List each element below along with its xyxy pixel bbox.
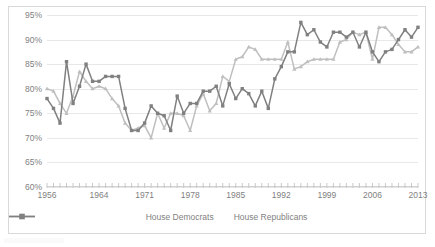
x-axis-tick-label: 1985 <box>226 191 245 200</box>
data-point-marker <box>195 102 198 105</box>
data-point-marker <box>371 50 374 53</box>
y-axis-tick-label: 80% <box>25 85 42 94</box>
data-point-marker <box>91 80 94 83</box>
series-line <box>47 22 418 130</box>
data-point-marker <box>410 35 413 38</box>
data-point-marker <box>156 112 159 115</box>
data-point-marker <box>221 104 224 107</box>
data-point-marker <box>299 21 302 24</box>
legend-swatch-republicans <box>9 212 35 221</box>
data-point-marker <box>416 26 419 29</box>
data-point-marker <box>182 112 185 115</box>
data-point-marker <box>65 60 68 63</box>
data-point-marker <box>214 101 218 105</box>
series-svg <box>47 15 418 187</box>
y-axis-tick-label: 65% <box>25 158 42 167</box>
data-point-marker <box>52 107 55 110</box>
legend-item-house-republicans: House Republicans <box>234 212 308 222</box>
data-point-marker <box>45 97 48 100</box>
plot-area: 60%65%70%75%80%85%90%95% <box>47 15 418 187</box>
data-point-marker <box>78 85 81 88</box>
data-point-marker <box>110 75 113 78</box>
y-axis-tick-label: 75% <box>25 109 42 118</box>
data-point-marker <box>149 104 152 107</box>
data-point-marker <box>123 107 126 110</box>
data-point-marker <box>97 84 101 88</box>
legend-item-house-democrats: House Democrats <box>146 212 214 222</box>
data-point-marker <box>77 69 81 73</box>
data-point-marker <box>403 28 406 31</box>
data-point-marker <box>338 31 341 34</box>
data-point-marker <box>247 45 251 49</box>
data-point-marker <box>273 77 276 80</box>
data-point-marker <box>58 121 61 124</box>
x-axis-tick-label: 1999 <box>317 191 336 200</box>
data-point-marker <box>136 129 139 132</box>
data-point-marker <box>45 87 49 91</box>
data-point-marker <box>162 114 165 117</box>
data-point-marker <box>202 89 205 92</box>
data-point-marker <box>286 50 289 53</box>
x-axis-tick-label: 2013 <box>409 191 428 200</box>
data-point-marker <box>377 60 380 63</box>
data-point-marker <box>384 50 387 53</box>
data-point-marker <box>208 89 211 92</box>
data-point-marker <box>351 31 354 34</box>
data-point-marker <box>397 38 400 41</box>
data-point-marker <box>104 75 107 78</box>
data-point-marker <box>370 57 374 61</box>
chart-card: 60%65%70%75%80%85%90%95% 195619641971197… <box>8 6 426 234</box>
chart-legend: House Democrats House Republicans <box>9 212 435 222</box>
data-point-marker <box>345 35 348 38</box>
data-point-marker <box>221 74 225 78</box>
data-point-marker <box>97 80 100 83</box>
data-point-marker <box>416 45 420 49</box>
data-point-marker <box>332 31 335 34</box>
data-point-marker <box>234 97 237 100</box>
y-axis-tick-label: 95% <box>25 11 42 20</box>
data-point-marker <box>117 75 120 78</box>
data-point-marker <box>123 121 127 125</box>
data-point-marker <box>267 107 270 110</box>
x-axis-labels: 195619641971197819851992199920062013 <box>47 191 418 205</box>
series-house-republicans <box>45 21 419 133</box>
data-point-marker <box>319 40 322 43</box>
data-point-marker <box>84 62 87 65</box>
data-point-marker <box>325 45 328 48</box>
data-point-marker <box>130 129 133 132</box>
data-point-marker <box>306 33 309 36</box>
legend-label-house-democrats: House Democrats <box>146 212 214 222</box>
x-axis-tick-label: 2006 <box>363 191 382 200</box>
data-point-marker <box>293 50 296 53</box>
series-house-democrats <box>45 25 420 139</box>
x-axis-tick-label: 1964 <box>90 191 109 200</box>
series-line <box>47 27 418 138</box>
data-point-marker <box>254 104 257 107</box>
data-point-marker <box>143 121 146 124</box>
data-point-marker <box>358 45 361 48</box>
data-point-marker <box>390 48 393 51</box>
data-point-marker <box>215 85 218 88</box>
data-point-marker <box>260 89 263 92</box>
x-axis-tick-label: 1978 <box>181 191 200 200</box>
x-axis-tick-label: 1992 <box>272 191 291 200</box>
y-axis-tick-label: 70% <box>25 134 42 143</box>
data-point-marker <box>71 102 74 105</box>
data-point-marker <box>247 92 250 95</box>
x-axis-tick-label: 1956 <box>38 191 57 200</box>
data-point-marker <box>228 82 231 85</box>
footer-artifact <box>4 238 64 243</box>
data-point-marker <box>169 129 172 132</box>
data-point-marker <box>188 102 191 105</box>
data-point-marker <box>364 31 367 34</box>
data-point-marker <box>312 28 315 31</box>
data-point-marker <box>175 94 178 97</box>
data-point-marker <box>286 40 290 44</box>
y-axis-tick-label: 90% <box>25 36 42 45</box>
x-axis-tick-label: 1971 <box>135 191 154 200</box>
y-axis-tick-label: 85% <box>25 60 42 69</box>
data-point-marker <box>241 87 244 90</box>
legend-label-house-republicans: House Republicans <box>234 212 308 222</box>
data-point-marker <box>280 65 283 68</box>
